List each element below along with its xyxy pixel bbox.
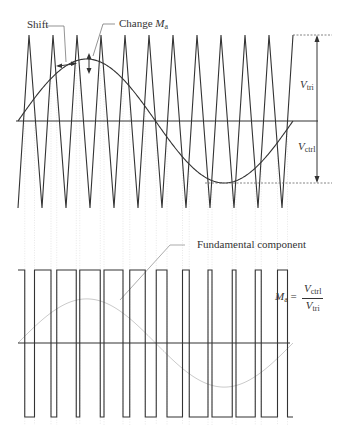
shift-leader-line (46, 26, 66, 62)
spwm-diagram (0, 0, 342, 436)
vctrl-sub: ctrl (305, 145, 316, 154)
vtri-label: Vtri (300, 78, 314, 92)
arrow-up-icon (315, 35, 320, 42)
change-leader-line (93, 24, 115, 56)
shift-label: Shift (27, 18, 48, 30)
formula-ma-sub: a (284, 295, 288, 304)
vctrl-label: Vctrl (298, 140, 315, 154)
ma-var: M (155, 17, 164, 29)
formula-equals: = (290, 290, 296, 302)
change-ma-label: Change Ma (119, 17, 168, 31)
formula-denominator: Vtri (304, 299, 322, 315)
formula-fraction: Vctrl Vtri (302, 282, 323, 315)
formula-lhs: Ma = (275, 290, 297, 304)
ma-sub: a (165, 22, 169, 31)
formula-numerator: Vctrl (302, 282, 323, 299)
change-text: Change (119, 17, 153, 29)
change-arrow-down-icon (87, 68, 92, 74)
vtri-var: V (300, 78, 307, 90)
shift-arrow-left-icon (56, 64, 62, 69)
vtri-sub: tri (307, 83, 314, 92)
arrow-down-icon (315, 176, 320, 183)
formula-ma-var: M (275, 290, 284, 302)
fundamental-label: Fundamental component (197, 238, 306, 250)
change-arrow-up-icon (87, 53, 92, 59)
vctrl-var: V (298, 140, 305, 152)
